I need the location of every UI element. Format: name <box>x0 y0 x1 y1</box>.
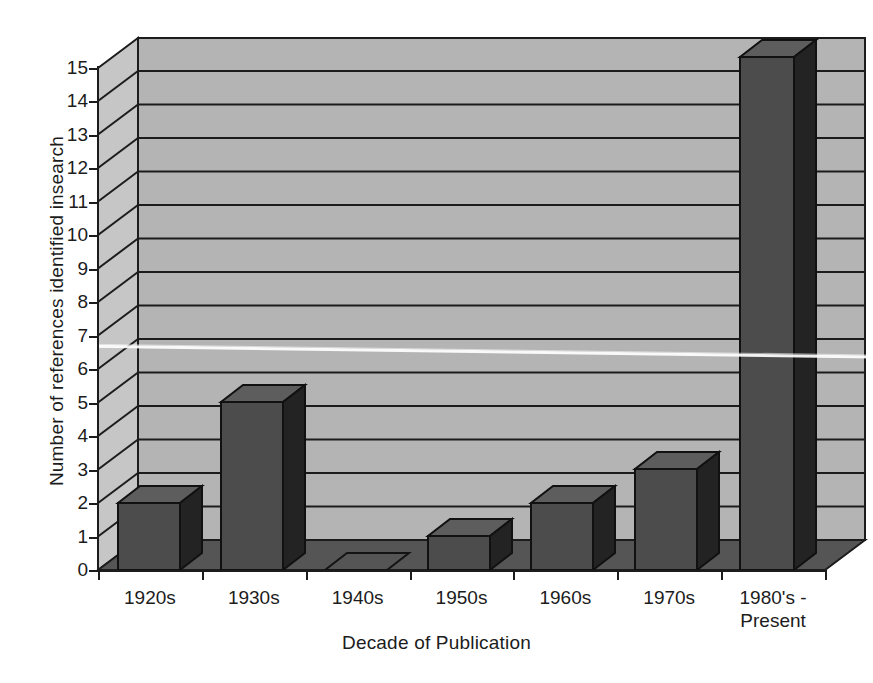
y-tick-mark <box>89 168 98 170</box>
bar-1950s-front <box>428 536 490 570</box>
x-tick-mark <box>721 570 723 580</box>
bar-1980s-present-side <box>794 40 816 570</box>
left-wall <box>98 38 138 570</box>
y-tick-mark <box>89 68 98 70</box>
bar-chart: 0123456789101112131415 Number of referen… <box>0 0 873 683</box>
bar-1920s-front <box>118 503 180 570</box>
y-tick-mark <box>89 403 98 405</box>
x-tick-mark <box>617 570 619 580</box>
bar-1930s-front <box>221 402 283 570</box>
y-tick-mark <box>89 436 98 438</box>
chart-plot-area <box>0 0 873 683</box>
x-tick-label: 1940s <box>298 586 418 609</box>
x-tick-label-line: 1960s <box>505 586 625 609</box>
x-tick-label-line: Present <box>713 609 833 632</box>
bar-1960s[interactable] <box>531 486 615 570</box>
x-tick-label-line: 1980's - <box>713 586 833 609</box>
x-tick-mark <box>202 570 204 580</box>
y-tick-mark <box>89 269 98 271</box>
x-tick-label: 1920s <box>90 586 210 609</box>
y-tick-mark <box>89 369 98 371</box>
x-tick-label-line: 1940s <box>298 586 418 609</box>
bar-1970s-front <box>635 469 697 570</box>
y-tick-mark <box>89 235 98 237</box>
x-tick-mark <box>825 570 827 580</box>
x-axis-title: Decade of Publication <box>0 632 873 654</box>
y-tick-mark <box>89 470 98 472</box>
x-tick-mark <box>410 570 412 580</box>
y-tick-mark <box>89 537 98 539</box>
y-tick-mark <box>89 302 98 304</box>
y-axis-title: Number of references identified insearch <box>46 51 68 571</box>
x-tick-label-line: 1920s <box>90 586 210 609</box>
y-axis-line <box>97 66 99 572</box>
y-tick-mark <box>89 570 98 572</box>
x-axis-line <box>97 570 825 572</box>
bar-1920s[interactable] <box>118 486 202 570</box>
x-tick-label: 1960s <box>505 586 625 609</box>
x-tick-label: 1950s <box>402 586 522 609</box>
x-tick-mark <box>306 570 308 580</box>
bar-1930s-side <box>283 385 305 570</box>
x-tick-label: 1980's -Present <box>713 586 833 632</box>
x-tick-mark <box>513 570 515 580</box>
chart-3d-scene <box>98 38 865 570</box>
bar-1950s[interactable] <box>428 519 512 570</box>
x-tick-label: 1930s <box>194 586 314 609</box>
y-tick-mark <box>89 101 98 103</box>
y-tick-mark <box>89 202 98 204</box>
bar-1930s[interactable] <box>221 385 305 570</box>
bar-1960s-front <box>531 503 593 570</box>
x-tick-mark <box>98 570 100 580</box>
bar-1980s-present[interactable] <box>740 40 816 570</box>
x-tick-label-line: 1950s <box>402 586 522 609</box>
x-tick-label-line: 1930s <box>194 586 314 609</box>
bar-1970s[interactable] <box>635 452 719 570</box>
x-tick-label: 1970s <box>609 586 729 609</box>
y-tick-mark <box>89 135 98 137</box>
y-tick-mark <box>89 503 98 505</box>
y-tick-mark <box>89 336 98 338</box>
bar-1970s-side <box>697 452 719 570</box>
bar-1980s-present-front <box>740 57 794 570</box>
x-tick-label-line: 1970s <box>609 586 729 609</box>
